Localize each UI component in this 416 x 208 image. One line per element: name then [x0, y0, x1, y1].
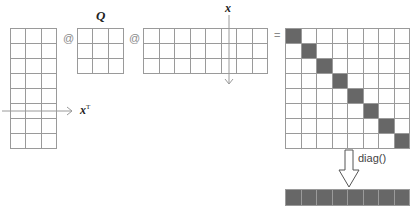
matrix-cell: [364, 134, 380, 149]
matrix-cell: [26, 119, 41, 134]
matrix-cell: [379, 104, 395, 119]
matrix-cell: [395, 134, 411, 149]
matrix-x-transpose: [143, 28, 268, 74]
matrix-cell: [286, 104, 302, 119]
diag-down-arrow-icon: [339, 150, 359, 187]
matrix-cell: [253, 29, 269, 44]
matrix-cell: [26, 29, 41, 44]
matrix-cell: [175, 29, 191, 44]
matrix-cell: [395, 44, 411, 59]
matrix-cell: [317, 119, 333, 134]
matrix-cell: [253, 44, 269, 59]
matrix-cell: [286, 119, 302, 134]
matrix-cell: [348, 59, 364, 74]
matrix-cell: [237, 29, 253, 44]
matrix-cell: [395, 74, 411, 89]
diag-vector: [285, 189, 410, 206]
matrix-cell: [379, 134, 395, 149]
matrix-cell: [286, 44, 302, 59]
matrix-cell: [317, 104, 333, 119]
matrix-cell: [333, 119, 349, 134]
matrix-cell: [42, 89, 57, 104]
matrix-cell: [395, 59, 411, 74]
x-label: x: [225, 1, 231, 16]
matrix-cell: [302, 29, 318, 44]
matrix-cell: [144, 29, 160, 44]
matrix-cell: [395, 104, 411, 119]
matrix-cell: [286, 190, 302, 206]
matrix-cell: [333, 74, 349, 89]
matrix-cell: [333, 44, 349, 59]
matrix-cell: [333, 104, 349, 119]
matrix-cell: [222, 29, 238, 44]
matrix-cell: [206, 44, 222, 59]
matrix-cell: [302, 44, 318, 59]
matrix-cell: [206, 59, 222, 74]
matrix-cell: [379, 59, 395, 74]
matrix-cell: [42, 29, 57, 44]
matrix-cell: [302, 134, 318, 149]
matrix-cell: [379, 29, 395, 44]
matrix-cell: [395, 119, 411, 134]
matrix-cell: [78, 44, 93, 59]
matrix-cell: [253, 59, 269, 74]
matrix-cell: [175, 44, 191, 59]
matrix-cell: [364, 104, 380, 119]
matrix-cell: [348, 29, 364, 44]
matrix-cell: [144, 59, 160, 74]
matrix-cell: [222, 44, 238, 59]
matrix-cell: [93, 59, 108, 74]
matrix-cell: [379, 44, 395, 59]
matrix-cell: [348, 104, 364, 119]
matrix-cell: [11, 44, 26, 59]
matrix-cell: [191, 44, 207, 59]
matrix-cell: [286, 89, 302, 104]
matrix-cell: [317, 190, 333, 206]
matmul-operator-2: @: [129, 32, 140, 44]
matrix-cell: [286, 74, 302, 89]
matrix-q: [77, 28, 124, 74]
matrix-cell: [302, 89, 318, 104]
matrix-cell: [379, 190, 395, 206]
matrix-cell: [78, 29, 93, 44]
matrix-cell: [395, 89, 411, 104]
matrix-cell: [206, 29, 222, 44]
matrix-cell: [302, 190, 318, 206]
matrix-result: [285, 28, 410, 149]
matrix-cell: [317, 29, 333, 44]
q-label: Q: [96, 8, 105, 24]
matrix-cell: [348, 89, 364, 104]
matrix-cell: [109, 29, 124, 44]
matrix-cell: [302, 59, 318, 74]
equals-operator: =: [274, 29, 280, 41]
matrix-cell: [93, 44, 108, 59]
matrix-cell: [333, 134, 349, 149]
matrix-cell: [364, 44, 380, 59]
matrix-cell: [364, 29, 380, 44]
matrix-cell: [42, 104, 57, 119]
matrix-cell: [11, 104, 26, 119]
matrix-cell: [237, 59, 253, 74]
matrix-cell: [11, 59, 26, 74]
matrix-x-left: [10, 28, 57, 149]
matrix-cell: [317, 89, 333, 104]
matrix-cell: [26, 74, 41, 89]
matrix-cell: [317, 44, 333, 59]
matrix-cell: [78, 59, 93, 74]
matrix-cell: [26, 104, 41, 119]
matrix-cell: [364, 89, 380, 104]
matrix-cell: [42, 44, 57, 59]
matrix-cell: [333, 190, 349, 206]
matrix-cell: [286, 59, 302, 74]
matrix-cell: [26, 89, 41, 104]
matmul-operator-1: @: [63, 32, 74, 44]
matrix-cell: [109, 59, 124, 74]
matrix-cell: [191, 29, 207, 44]
x-transpose-label: xT: [80, 103, 90, 118]
matrix-cell: [11, 119, 26, 134]
matrix-cell: [26, 134, 41, 149]
matrix-cell: [237, 44, 253, 59]
matrix-cell: [379, 119, 395, 134]
matrix-cell: [348, 190, 364, 206]
matrix-cell: [364, 74, 380, 89]
